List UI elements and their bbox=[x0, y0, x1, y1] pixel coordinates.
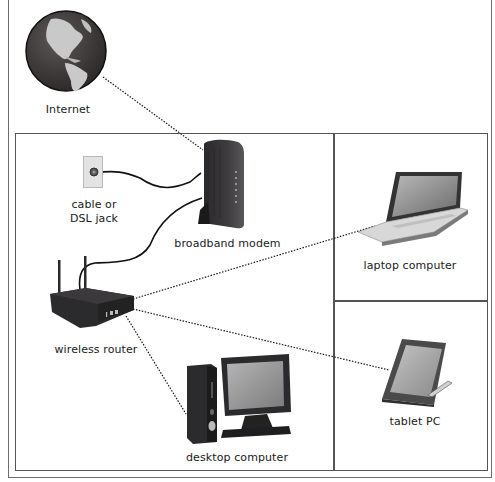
jack-label-line2: DSL jack bbox=[58, 212, 130, 226]
tablet-label: tablet PC bbox=[375, 415, 455, 428]
jack-label: cable or DSL jack bbox=[58, 198, 130, 226]
laptop-icon bbox=[352, 170, 472, 250]
tablet-icon bbox=[380, 335, 460, 407]
wall-jack-icon bbox=[83, 156, 103, 188]
laptop-label: laptop computer bbox=[350, 259, 470, 272]
jack-label-line1: cable or bbox=[58, 198, 130, 212]
internet-label: Internet bbox=[26, 103, 110, 116]
jack-modem-cable bbox=[94, 172, 201, 188]
router-label: wireless router bbox=[40, 343, 152, 356]
internet-modem-link bbox=[103, 77, 203, 150]
globe-icon bbox=[25, 7, 109, 97]
router-icon bbox=[46, 256, 138, 336]
desktop-label: desktop computer bbox=[175, 451, 299, 464]
modem-icon bbox=[196, 138, 246, 230]
desktop-icon bbox=[181, 354, 301, 446]
modem-label: broadband modem bbox=[170, 237, 285, 250]
